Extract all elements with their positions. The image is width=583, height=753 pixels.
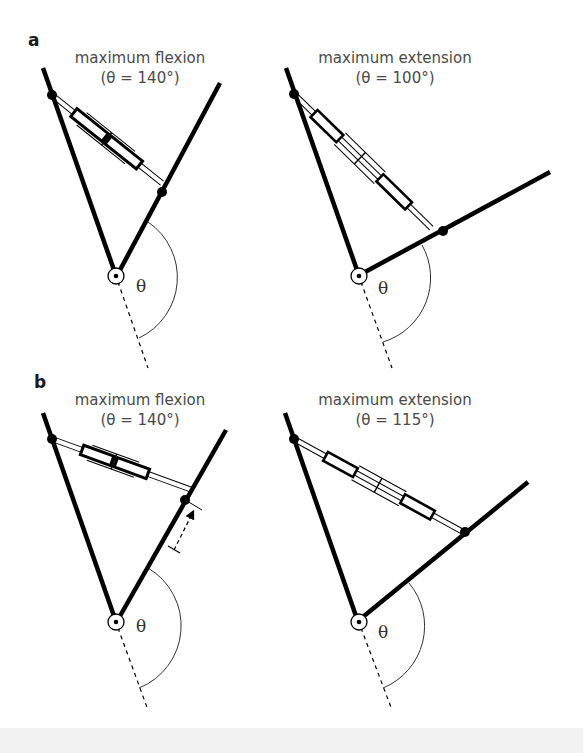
- angle-arc: [383, 583, 425, 688]
- actuator: [288, 88, 437, 234]
- distal-segment: [120, 83, 220, 270]
- actuator: [47, 89, 167, 190]
- joint-dot: [47, 90, 57, 100]
- joint-dot: [289, 434, 299, 444]
- reference-dashed-line: [118, 628, 148, 710]
- actuator: [290, 432, 469, 540]
- footer-band: [0, 728, 583, 753]
- panel-a-right-linkage: θ: [286, 68, 550, 368]
- joint-dot: [47, 434, 57, 444]
- theta-label: θ: [378, 622, 388, 642]
- pivot-center-dot: [114, 274, 119, 279]
- pivot-center-dot: [357, 620, 362, 625]
- pivot-center-dot: [114, 620, 119, 625]
- distal-segment: [364, 482, 528, 616]
- panel-b-left-linkage: θ: [43, 413, 226, 710]
- theta-label: θ: [136, 276, 146, 296]
- theta-label: θ: [136, 616, 146, 636]
- joint-dot: [180, 495, 190, 505]
- pivot-center-dot: [357, 274, 362, 279]
- joint-dot: [460, 527, 470, 537]
- joint-dot: [438, 226, 448, 236]
- distal-segment: [120, 430, 226, 616]
- diagram-canvas: θ θ: [0, 0, 583, 753]
- proximal-segment: [286, 68, 357, 270]
- slide-start-tick: [168, 546, 180, 553]
- theta-label: θ: [378, 278, 388, 298]
- panel-a-left-linkage: θ: [43, 68, 220, 368]
- panel-b-right-linkage: θ: [285, 413, 528, 710]
- joint-dot: [157, 187, 167, 197]
- joint-dot: [289, 89, 299, 99]
